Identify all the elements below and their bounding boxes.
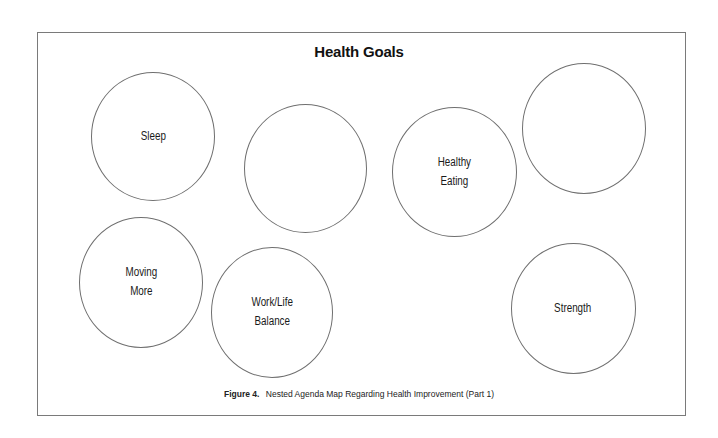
node-sleep: Sleep xyxy=(91,72,215,201)
node-work-life-balance: Work/Life Balance xyxy=(211,247,333,378)
caption-text: Nested Agenda Map Regarding Health Impro… xyxy=(266,389,494,399)
figure-label: Figure 4. xyxy=(224,389,259,399)
diagram-title: Health Goals xyxy=(0,43,718,60)
node-label: Healthy Eating xyxy=(437,153,470,191)
figure-caption: Figure 4. Nested Agenda Map Regarding He… xyxy=(0,389,718,399)
node-empty-2 xyxy=(522,63,646,194)
node-empty-1 xyxy=(244,104,367,233)
node-label: Strength xyxy=(554,299,591,318)
node-label: Sleep xyxy=(140,127,165,146)
node-label: Work/Life Balance xyxy=(251,293,292,331)
node-label: Moving More xyxy=(125,263,157,301)
node-healthy-eating: Healthy Eating xyxy=(392,107,517,237)
node-strength: Strength xyxy=(511,243,636,374)
node-moving-more: Moving More xyxy=(79,217,203,348)
